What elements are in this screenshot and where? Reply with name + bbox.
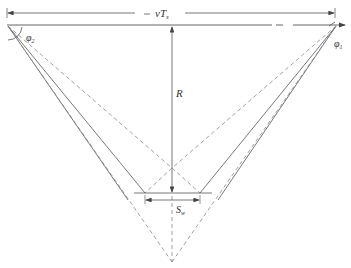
top-dimension-line — [7, 8, 335, 18]
geometry-diagram: vTs φ2 φ1 R Sw — [0, 0, 351, 268]
angle-label-right: φ1 — [334, 38, 343, 50]
top-dimension-label: vTs — [155, 7, 169, 21]
range-label: R — [175, 87, 183, 99]
angle-label-left: φ2 — [26, 32, 35, 44]
right-beam-lines — [200, 26, 336, 200]
swath-label: Sw — [176, 204, 185, 216]
swath-dimension-line — [145, 195, 200, 204]
left-beam-lines — [8, 26, 145, 200]
